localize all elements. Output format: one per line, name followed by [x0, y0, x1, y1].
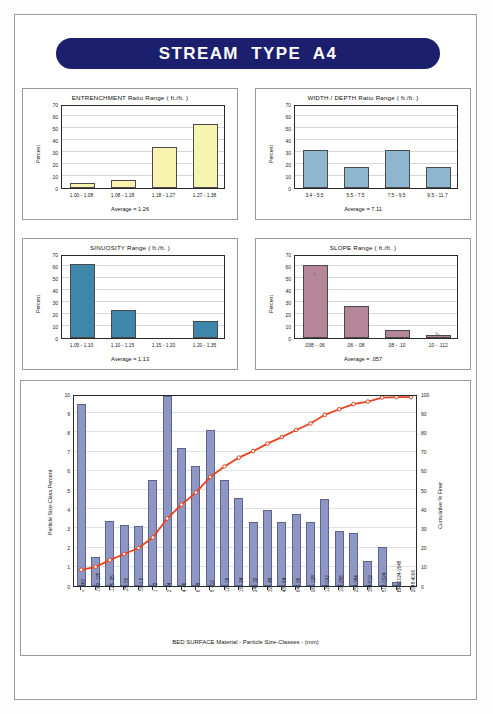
x-axis-tick-label: .08 - .10 [376, 344, 417, 349]
bar [193, 124, 218, 188]
x-axis-tick-label: .25-.50 [125, 578, 130, 592]
y-axis-left-tick-label: 10 [59, 393, 70, 398]
average-label-width-depth: Average = 7.11 [256, 206, 470, 212]
y-axis-left-tick-label: 8 [59, 431, 70, 436]
y-axis-tick-label: 50 [277, 127, 291, 132]
y-axis-right-tick-label: 10 [421, 565, 427, 570]
chart-title-slope: SLOPE Range ( ft./ft. ) [256, 244, 470, 251]
y-axis-tick-label: 30 [44, 151, 58, 156]
y-axis-left-title: Particle Size-Class Percent [47, 470, 53, 535]
y-axis-tick-label: 70 [277, 103, 291, 108]
x-axis-tick-label: 1.00 - 1.08 [61, 194, 102, 199]
x-axis-tick-label: 64 - 96 [297, 578, 302, 592]
plot-area-width-depth [294, 105, 458, 189]
bar [70, 183, 95, 188]
bar [111, 310, 136, 338]
y-axis-left-tick-label: 1 [59, 565, 70, 570]
y-axis-right-tick-label: 90 [421, 412, 427, 417]
bed-surface-x-axis-title: BED SURFACE Material - Particle Size-Cla… [21, 639, 470, 645]
y-axis-tick-label: 20 [277, 313, 291, 318]
page-title: STREAM TYPE A4 [159, 44, 338, 64]
y-axis-left-tick-label: 2 [59, 546, 70, 551]
y-axis-tick-label: 30 [44, 301, 58, 306]
bar [303, 150, 328, 188]
x-axis-tick-label: 3.4 - 5.5 [294, 194, 335, 199]
y-axis-tick-label: 60 [44, 115, 58, 120]
bar [152, 147, 177, 188]
y-axis-tick-label: 10 [44, 175, 58, 180]
y-axis-right-title: Cumulative % Finer [437, 482, 443, 529]
y-axis-title-sinuosity: Percent [35, 295, 41, 313]
x-axis-tick-label: .10 - .112 [417, 344, 458, 349]
y-axis-tick-label: 0 [44, 187, 58, 192]
y-axis-tick-label: 60 [277, 265, 291, 270]
y-axis-tick-label: 20 [44, 313, 58, 318]
bed-surface-plot-area [73, 395, 417, 587]
x-axis-tick-label: 12 - 16 [226, 578, 231, 592]
y-axis-title-entrenchment: Percent [35, 145, 41, 163]
y-axis-tick-label: 30 [277, 301, 291, 306]
gridline [295, 127, 457, 128]
x-axis-tick-label: .06 - .08 [335, 344, 376, 349]
chart-panel-entrenchment: ENTRENCHMENT Ratio Range ( ft./ft. )0102… [22, 88, 238, 220]
y-axis-tick-label: 40 [44, 289, 58, 294]
x-axis-tick-label: 16 - 24 [240, 578, 245, 592]
chart-panel-width-depth: WIDTH / DEPTH Ratio Range ( ft./ft. )010… [255, 88, 471, 220]
gridline [295, 139, 457, 140]
bar-annotation: 3+ [417, 331, 458, 336]
y-axis-left-tick-label: 4 [59, 508, 70, 513]
chart-panel-sinuosity: SINUOSITY Range ( ft./ft. )0102030405060… [22, 238, 238, 370]
x-axis-tick-label: 1.08 - 1.18 [102, 194, 143, 199]
x-axis-tick-label: 5.5 - 7.5 [335, 194, 376, 199]
x-axis-tick-label: 32 - 48 [269, 578, 274, 592]
y-axis-right-tick-label: 100 [421, 393, 429, 398]
x-axis-tick-label: 1.27 - 1.38 [184, 194, 225, 199]
y-axis-tick-label: 50 [44, 277, 58, 282]
bar [111, 180, 136, 188]
x-axis-tick-label: .038 - .06 [294, 344, 335, 349]
x-axis-tick-label: 1.20 - 1.35 [184, 344, 225, 349]
y-axis-title-slope: Percent [268, 295, 274, 313]
y-axis-tick-label: 70 [44, 103, 58, 108]
y-axis-right-tick-label: 60 [421, 469, 427, 474]
y-axis-right-tick-label: 0 [421, 585, 424, 590]
x-axis-tick-label: 1.15 - 1.20 [143, 344, 184, 349]
average-label-entrenchment: Average = 1.26 [23, 206, 237, 212]
y-axis-tick-label: 50 [44, 127, 58, 132]
y-axis-title-width-depth: Percent [268, 145, 274, 163]
bar [193, 321, 218, 338]
y-axis-tick-label: 60 [44, 265, 58, 270]
y-axis-tick-label: 70 [44, 253, 58, 258]
y-axis-tick-label: 0 [277, 337, 291, 342]
x-axis-tick-label: 1.18 - 1.27 [143, 194, 184, 199]
x-axis-tick-label: 192-256 [340, 575, 345, 592]
x-axis-tick-label: 512-1024 [383, 573, 388, 592]
y-axis-tick-label: 40 [44, 139, 58, 144]
x-axis-tick-label: 2048-4096 [412, 570, 417, 592]
x-axis-tick-label: 96 - 128 [312, 575, 317, 592]
bar [344, 167, 369, 188]
y-axis-left-tick-label: 0 [59, 585, 70, 590]
bar [344, 306, 369, 338]
y-axis-tick-label: 30 [277, 151, 291, 156]
chart-title-width-depth: WIDTH / DEPTH Ratio Range ( ft./ft. ) [256, 94, 470, 101]
x-axis-tick-label: 4 - 6 [183, 583, 188, 592]
bar [426, 167, 451, 188]
x-axis-tick-label: 7.5 - 9.5 [376, 194, 417, 199]
y-axis-right-tick-label: 40 [421, 508, 427, 513]
y-axis-tick-label: 50 [277, 277, 291, 282]
y-axis-right-tick-label: 70 [421, 450, 427, 455]
y-axis-tick-label: 10 [44, 325, 58, 330]
plot-area-entrenchment [61, 105, 225, 189]
average-label-sinuosity: Average = 1.13 [23, 356, 237, 362]
y-axis-left-tick-label: 7 [59, 450, 70, 455]
x-axis-tick-label: 9.5 - 11.7 [417, 194, 458, 199]
y-axis-left-tick-label: 5 [59, 489, 70, 494]
page-title-banner: STREAM TYPE A4 [56, 38, 440, 69]
y-axis-left-tick-label: 6 [59, 469, 70, 474]
plot-area-sinuosity [61, 255, 225, 339]
y-axis-tick-label: 0 [277, 187, 291, 192]
plot-area-slope [294, 255, 458, 339]
y-axis-tick-label: 10 [277, 175, 291, 180]
x-axis-tick-label: .125-.25 [111, 575, 116, 592]
